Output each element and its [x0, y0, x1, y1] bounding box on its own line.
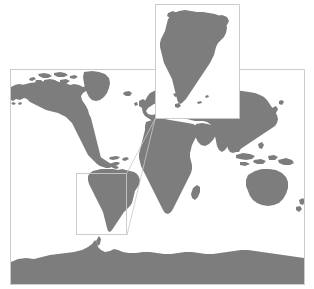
- south-america-inset[interactable]: [0, 0, 314, 289]
- map-figure: World map with magnified South America i…: [0, 0, 314, 289]
